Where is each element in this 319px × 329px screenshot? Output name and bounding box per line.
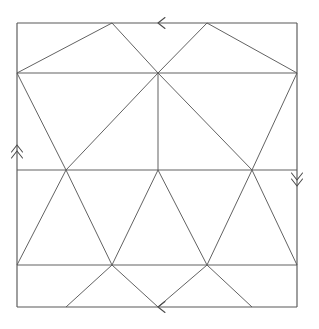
band3-diag-c	[112, 170, 158, 265]
band2-diag-c	[158, 73, 252, 170]
band3-diag-b	[66, 170, 112, 265]
band1-diag-b	[112, 23, 158, 73]
band2-diag-b	[66, 73, 158, 170]
band1-diag-d	[207, 23, 297, 73]
band3-diag-f	[252, 170, 297, 265]
band4-diag-d	[207, 265, 252, 307]
diagram-chords	[17, 23, 297, 307]
figure-root	[0, 0, 319, 329]
band4-diag-b	[112, 265, 158, 307]
band2-diag-a	[17, 73, 66, 170]
band1-diag-c	[158, 23, 207, 73]
diagram-boundary	[17, 23, 297, 307]
band3-diag-a	[17, 170, 66, 265]
band3-diag-e	[207, 170, 252, 265]
band3-diag-d	[158, 170, 207, 265]
band4-diag-c	[158, 265, 207, 307]
band2-diag-d	[252, 73, 297, 170]
diagram-canvas	[0, 0, 319, 329]
band1-diag-a	[17, 23, 112, 73]
edge-identification-markers	[12, 18, 303, 313]
band4-diag-a	[66, 265, 112, 307]
